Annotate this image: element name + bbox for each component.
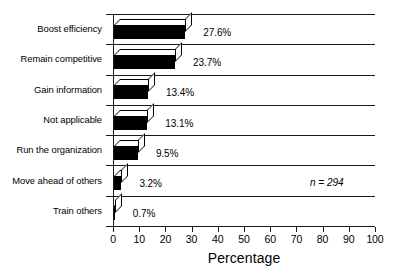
category-axis-tick	[106, 135, 113, 136]
bar-front-face	[113, 177, 121, 190]
x-axis-tick	[192, 227, 193, 232]
category-axis-tick	[106, 105, 113, 106]
bar-front-face	[113, 26, 185, 39]
bar-top-face	[113, 19, 192, 26]
x-axis-tick	[244, 227, 245, 232]
category-axis-tick	[106, 226, 113, 227]
gridline	[113, 44, 375, 45]
bar-front-face	[113, 147, 138, 160]
category-axis-tick	[106, 196, 113, 197]
bar-top-face	[113, 49, 182, 56]
x-axis-tick	[375, 227, 376, 232]
bar-value-label: 23.7%	[193, 57, 221, 68]
plot-area: 27.6%23.7%13.4%13.1%9.5%3.2%0.7%n = 294	[113, 14, 375, 226]
x-axis-title: Percentage	[113, 250, 375, 266]
gridline	[113, 135, 375, 136]
gridline	[113, 165, 375, 166]
x-axis-tick	[270, 227, 271, 232]
category-label: Not applicable	[0, 115, 102, 125]
bar-value-label: 9.5%	[156, 148, 178, 159]
bar-front-face	[113, 56, 175, 69]
category-label: Gain information	[0, 85, 102, 95]
category-label: Move ahead of others	[0, 176, 102, 186]
category-label: Boost efficiency	[0, 24, 102, 34]
x-axis-tick	[113, 227, 114, 232]
x-axis-tick	[349, 227, 350, 232]
x-axis-tick	[218, 227, 219, 232]
sample-size-annotation: n = 294	[310, 177, 344, 188]
bar-value-label: 13.1%	[165, 118, 193, 129]
category-axis-tick	[106, 44, 113, 45]
category-axis-tick	[106, 165, 113, 166]
category-axis-line	[113, 14, 114, 227]
category-axis-tick	[106, 14, 113, 15]
bar-front-face	[113, 117, 147, 130]
cropped-title-remnant	[0, 0, 399, 3]
category-axis-tick	[106, 75, 113, 76]
plot-top-border	[113, 14, 375, 15]
x-axis-tick	[323, 227, 324, 232]
x-axis-tick	[139, 227, 140, 232]
gridline	[113, 196, 375, 197]
bar-chart: Boost efficiencyRemain competitiveGain i…	[0, 0, 399, 273]
bar-value-label: 27.6%	[203, 27, 231, 38]
category-axis-labels: Boost efficiencyRemain competitiveGain i…	[0, 14, 107, 226]
category-label: Run the organization	[0, 145, 102, 155]
category-label: Remain competitive	[0, 54, 102, 64]
bar-value-label: 3.2%	[139, 178, 161, 189]
bar-value-label: 13.4%	[166, 87, 194, 98]
value-axis-ticks: 0102030405060708090100	[113, 227, 375, 232]
x-axis-tick	[165, 227, 166, 232]
bar-front-face	[113, 86, 148, 99]
bar-value-label: 0.7%	[133, 208, 155, 219]
category-label: Train others	[0, 206, 102, 216]
x-axis-tick	[296, 227, 297, 232]
x-axis-tick-label: 100	[360, 233, 390, 245]
